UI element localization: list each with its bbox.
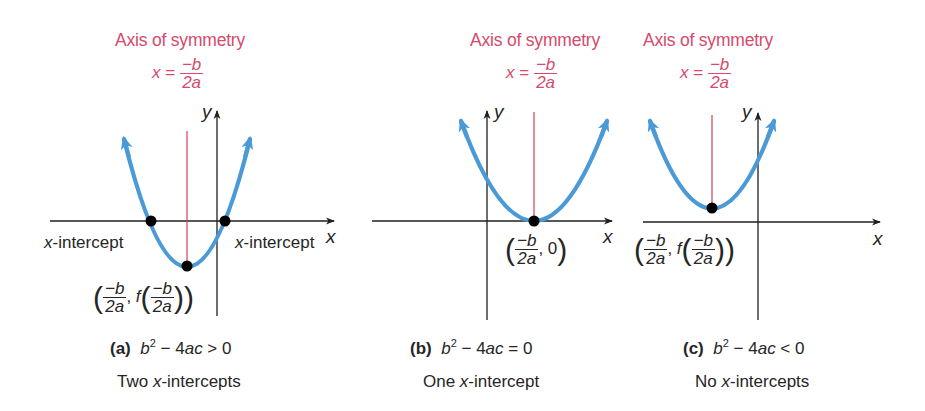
desc-pre: One (423, 372, 460, 391)
expr-b: b (713, 339, 722, 358)
panel-b-x-label: x (603, 226, 613, 248)
desc-pre: Two (117, 372, 153, 391)
panel-a-intercept-right-label: xx-intercept-intercept (235, 233, 314, 253)
vertex-num: −b (644, 232, 667, 250)
panel-b-graph (372, 111, 612, 320)
discriminant-figure: Axis of symmetry x = −b 2a y x xx-interc… (0, 0, 925, 411)
expr-rel: = 0 (504, 339, 533, 358)
panel-c-caption-condition: (c) b2 − 4ac < 0 (683, 337, 804, 359)
vertex-num: −b (103, 280, 126, 298)
panel-b-caption-description: One x-intercept (423, 372, 539, 392)
expr-b: b (140, 339, 149, 358)
panel-a-y-label: y (202, 101, 212, 123)
x-var: x (235, 233, 244, 252)
formula-den: 2a (534, 74, 557, 92)
panel-b-vertex-point (529, 216, 540, 227)
vertex-den: 2a (515, 250, 538, 268)
vertex-den: 2a (692, 250, 715, 268)
caption-tag: (a) (110, 339, 131, 358)
panel-b-axis-formula: x = −b 2a (506, 56, 557, 92)
desc-post: -intercepts (730, 372, 809, 391)
panel-c-axis-formula: x = −b 2a (680, 56, 731, 92)
expr-rel: > 0 (203, 339, 232, 358)
panel-a-formula-num: −b (180, 56, 203, 74)
paren-close: ) (557, 233, 567, 266)
paren-open: ( (634, 233, 644, 266)
caption-tag: (c) (683, 339, 704, 358)
vertex-den: 2a (103, 298, 126, 316)
panel-b-caption-condition: (b) b2 − 4ac = 0 (410, 337, 532, 359)
paren-close: )) (174, 281, 194, 314)
desc-post: -intercepts (161, 372, 240, 391)
vertex-sep: , (667, 239, 672, 258)
paren-open: ( (141, 281, 151, 314)
panel-c-x-label: x (873, 228, 883, 250)
expr-rel: < 0 (776, 339, 805, 358)
panel-c-caption-description: No x-intercepts (695, 372, 809, 392)
panel-a-intercept-left-label: xx-intercept-intercept (44, 233, 123, 253)
panel-a-arrow-left-icon (124, 139, 129, 157)
panel-a-formula-den: 2a (180, 74, 203, 92)
formula-lhs: x (680, 63, 689, 82)
panel-a-formula-fraction: −b 2a (180, 56, 203, 92)
panel-a-formula-eq: = (165, 63, 175, 82)
panel-a-axis-title: Axis of symmetry (115, 30, 245, 51)
panel-a-axis-formula: x = −b 2a (152, 56, 203, 92)
vertex-num: −b (515, 232, 538, 250)
panel-a-arrow-right-icon (245, 139, 250, 157)
panel-a-vertex-label: (−b2a, f(−b2a)) (93, 280, 194, 316)
paren-open: ( (682, 233, 692, 266)
panel-c-axis-title: Axis of symmetry (643, 30, 773, 51)
paren-open: ( (93, 281, 103, 314)
intercept-suffix: -intercept (53, 233, 124, 252)
panel-c-arrow-left-icon (650, 121, 656, 137)
paren-open: ( (505, 233, 515, 266)
expr-ac: ac (486, 339, 504, 358)
panel-c-graph (643, 113, 880, 320)
expr-rest: − 4 (156, 339, 185, 358)
panel-a-x-label: x (326, 226, 336, 248)
vertex-num: −b (151, 280, 174, 298)
panel-c-vertex-label: (−b2a, f(−b2a)) (634, 232, 735, 268)
caption-tag: (b) (410, 339, 432, 358)
desc-pre: No (695, 372, 721, 391)
intercept-suffix: -intercept (244, 233, 315, 252)
formula-fraction: −b 2a (534, 56, 557, 92)
vertex-value: 0 (548, 239, 557, 258)
desc-post: -intercept (468, 372, 539, 391)
panel-a-formula-lhs: x (152, 63, 161, 82)
panel-a-intercept-left-point (146, 216, 157, 227)
formula-eq: = (693, 63, 703, 82)
panel-a-vertex-point (182, 261, 193, 272)
vertex-sep: , (538, 239, 543, 258)
panel-a-intercept-right-point (220, 216, 231, 227)
panel-b-arrow-left-icon (461, 121, 467, 137)
vertex-den: 2a (151, 298, 174, 316)
panel-c-y-label: y (742, 101, 752, 123)
vertex-sep: , (126, 287, 131, 306)
expr-ac: ac (185, 339, 203, 358)
expr-b: b (441, 339, 450, 358)
expr-rest: − 4 (729, 339, 758, 358)
panel-c-arrow-right-icon (768, 121, 774, 137)
vertex-num: −b (692, 232, 715, 250)
panel-c-vertex-point (707, 203, 718, 214)
panel-a-caption-condition: (a) b2 − 4ac > 0 (110, 337, 231, 359)
formula-num: −b (534, 56, 557, 74)
expr-rest: − 4 (457, 339, 486, 358)
panel-b-y-label: y (494, 101, 504, 123)
panel-b-arrow-right-icon (601, 121, 607, 137)
formula-fraction: −b 2a (708, 56, 731, 92)
x-var: x (44, 233, 53, 252)
desc-x: x (721, 372, 730, 391)
panel-b-vertex-label: (−b2a, 0) (505, 232, 567, 268)
panel-a-caption-description: Two x-intercepts (117, 372, 241, 392)
formula-den: 2a (708, 74, 731, 92)
paren-close: )) (715, 233, 735, 266)
vertex-den: 2a (644, 250, 667, 268)
formula-lhs: x (506, 63, 515, 82)
panel-b-axis-title: Axis of symmetry (470, 30, 600, 51)
expr-ac: ac (758, 339, 776, 358)
formula-num: −b (708, 56, 731, 74)
formula-eq: = (519, 63, 529, 82)
